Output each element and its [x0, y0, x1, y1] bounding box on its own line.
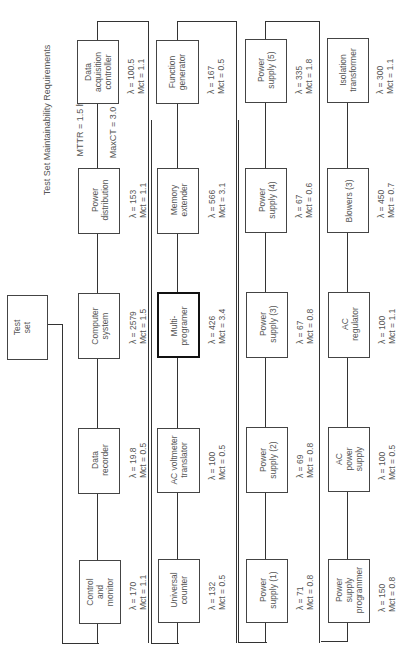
- component-values: λ = 19.8Mct = 0.5: [128, 418, 148, 478]
- component-values: λ = 426Mct = 3.4: [207, 284, 227, 344]
- component-values: λ = 69Mct = 0.8: [295, 418, 315, 478]
- branch4-bottom: [321, 641, 348, 642]
- branch2-top: [177, 21, 236, 22]
- component-label: Universal counter: [169, 562, 189, 618]
- component-label: Power supply (2): [258, 432, 278, 488]
- branch3-rail: [319, 21, 320, 643]
- component-values: λ = 150Mct = 0.8: [377, 552, 397, 612]
- component-label: Power supply (4): [257, 172, 277, 228]
- component-label: Data acquisition controller: [83, 44, 113, 100]
- component-label: Power distribution: [90, 172, 110, 228]
- branch3-left-rail: [238, 120, 239, 642]
- component-label: Power supply programmer: [334, 560, 364, 620]
- component-label: AC power supply: [334, 431, 364, 487]
- branch2-left-rail: [151, 120, 152, 643]
- component-values: λ = 153Mct = 1.1: [128, 158, 148, 218]
- component-label: Blowers (3): [344, 172, 354, 230]
- component-values: λ = 100Mct = 0.5: [377, 420, 397, 480]
- root-connector-v: [62, 324, 63, 644]
- component-values: λ = 167Mct = 0.5: [206, 34, 226, 94]
- branch2-bottom: [151, 643, 179, 644]
- root-connector-h: [48, 324, 63, 325]
- component-values: λ = 2579Mct = 1.5: [128, 284, 148, 344]
- branch1-top: [97, 21, 148, 22]
- component-values: λ = 300Mct = 1.1: [375, 34, 395, 94]
- component-label: Function generator: [167, 44, 187, 100]
- component-values: λ = 450Mct = 0.7: [376, 158, 396, 218]
- component-label: Power supply (3): [258, 296, 278, 352]
- branch1-bottom: [62, 643, 99, 644]
- component-label: Power supply (1): [258, 562, 278, 618]
- component-values: λ = 71Mct = 0.8: [295, 550, 315, 610]
- component-label: Multi- programer: [169, 298, 189, 354]
- component-values: λ = 335Mct = 1.8: [294, 34, 314, 94]
- component-values: λ = 67Mct = 0.6: [294, 158, 314, 218]
- component-values: λ = 100.5Mct = 1.1: [126, 34, 146, 94]
- branch1-rail: [148, 21, 149, 643]
- component-values: λ = 67Mct = 0.8: [295, 284, 315, 344]
- component-label: Data recorder: [90, 432, 110, 488]
- component-values: λ = 100Mct = 0.5: [207, 420, 227, 480]
- component-label: AC regulator: [340, 296, 360, 352]
- title-heading: Test Set Maintainability Requirements: [42, 35, 53, 205]
- component-label: Computer system: [90, 298, 110, 354]
- component-values: λ = 100Mct = 1.1: [377, 284, 397, 344]
- component-values: λ = 132Mct = 0.5: [207, 550, 227, 610]
- component-label: Power supply (5): [256, 42, 276, 98]
- test-set-label: Test set: [12, 305, 32, 350]
- component-label: Control and monitor: [85, 564, 115, 620]
- component-values: λ = 566Mct = 3.1: [207, 158, 227, 218]
- branch2-rail: [236, 21, 237, 643]
- component-values: λ = 170Mct = 1.1: [128, 550, 148, 610]
- branch3-bottom: [238, 642, 267, 643]
- component-label: Memory extender: [169, 172, 189, 228]
- branch3-top: [265, 21, 320, 22]
- component-label: AC voltmeter translator: [169, 430, 189, 490]
- component-label: Isolation transformer: [338, 42, 358, 98]
